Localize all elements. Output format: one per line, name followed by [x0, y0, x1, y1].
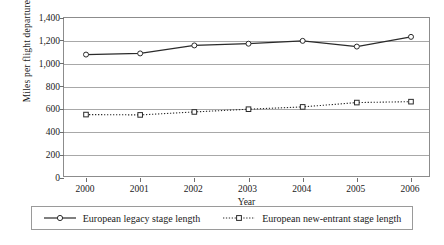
- x-axis-tick-mark: [249, 178, 250, 182]
- x-axis-tick-label: 2002: [170, 184, 216, 194]
- chart-figure: Miles per flight departure 0200400600800…: [0, 0, 444, 245]
- y-axis-tick-label: 200: [18, 150, 60, 160]
- y-axis-tick-label: 1,400: [18, 13, 60, 23]
- chart-legend: European legacy stage length European ne…: [31, 206, 413, 230]
- legend-label-legacy: European legacy stage length: [83, 213, 200, 224]
- data-point-marker-square: [300, 105, 305, 110]
- data-point-marker-circle: [409, 34, 414, 39]
- data-point-marker-square: [409, 99, 414, 104]
- series-layer: [64, 18, 431, 178]
- x-axis-tick-label: 2006: [387, 184, 433, 194]
- x-axis-tick-mark: [194, 178, 195, 182]
- legend-key-dotted-square-icon: [222, 213, 256, 223]
- data-point-marker-square: [84, 112, 89, 117]
- x-axis-tick-label: 2000: [62, 184, 108, 194]
- data-point-marker-circle: [354, 44, 359, 49]
- y-axis-tick-label: 1,200: [18, 36, 60, 46]
- y-axis-tick-label: 1,000: [18, 59, 60, 69]
- x-axis-tick-mark: [357, 178, 358, 182]
- x-axis-tick-mark: [140, 178, 141, 182]
- plot-area: 02004006008001,0001,2001,400: [63, 17, 430, 177]
- y-axis-tick-label: 0: [18, 173, 60, 183]
- x-axis-tick-mark: [303, 178, 304, 182]
- data-point-marker-square: [355, 100, 360, 105]
- legend-item-new-entrant[interactable]: European new-entrant stage length: [222, 213, 401, 224]
- x-axis-tick-label: 2004: [279, 184, 325, 194]
- data-point-marker-circle: [300, 38, 305, 43]
- x-axis-tick-label: 2003: [225, 184, 271, 194]
- data-point-marker-circle: [246, 41, 251, 46]
- x-axis-tick-mark: [86, 178, 87, 182]
- data-point-marker-circle: [138, 51, 143, 56]
- legend-item-legacy[interactable]: European legacy stage length: [43, 213, 200, 224]
- data-point-marker-square: [246, 107, 251, 112]
- data-point-marker-square: [138, 113, 143, 118]
- x-axis-tick-label: 2001: [116, 184, 162, 194]
- y-axis-tick-label: 600: [18, 104, 60, 114]
- data-point-marker-circle: [192, 43, 197, 48]
- data-point-marker-square: [192, 110, 197, 115]
- y-axis-tick-label: 800: [18, 82, 60, 92]
- x-axis-tick-mark: [411, 178, 412, 182]
- legend-key-solid-circle-icon: [43, 213, 77, 223]
- x-axis-tick-label: 2005: [333, 184, 379, 194]
- data-point-marker-circle: [84, 52, 89, 57]
- legend-label-new-entrant: European new-entrant stage length: [262, 213, 401, 224]
- y-axis-tick-label: 400: [18, 127, 60, 137]
